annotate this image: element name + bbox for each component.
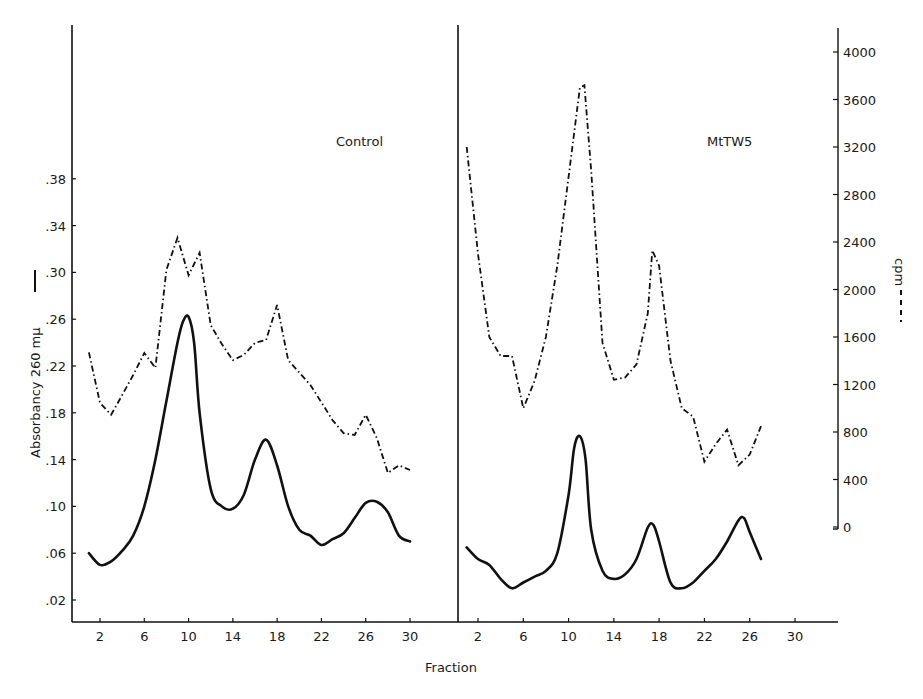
y-right-tick-label: 3200 (843, 140, 876, 155)
y-right-tick-label: 4000 (843, 45, 876, 60)
y-right-tick-label: 2000 (843, 283, 876, 298)
y-left-tick-label: .34 (45, 219, 66, 234)
x-tick-label: 6 (140, 629, 148, 644)
y-left-tick-label: .30 (45, 265, 66, 280)
y-right-tick-label: 1600 (843, 330, 876, 345)
y-right-tick-label: 2800 (843, 188, 876, 203)
y-left-tick-label: .18 (45, 406, 66, 421)
x-tick-label: 18 (269, 629, 286, 644)
x-tick-label: 6 (519, 629, 527, 644)
absorbancy-line-mttw5 (467, 436, 761, 589)
y-right-tick-label: 400 (843, 473, 868, 488)
x-tick-label: 26 (741, 629, 758, 644)
y-axis-left-title: Absorbancy 260 mμ (28, 327, 43, 458)
x-tick-label: 14 (225, 629, 242, 644)
y-right-tick-label: 800 (843, 425, 868, 440)
y-axis-right-title: cpm (892, 258, 907, 286)
y-left-tick-label: .38 (45, 172, 66, 187)
x-tick-label: 2 (474, 629, 482, 644)
x-tick-label: 30 (402, 629, 419, 644)
y-left-tick-label: .02 (45, 593, 66, 608)
y-left-tick-label: .10 (45, 499, 66, 514)
y-left-tick-label: .06 (45, 546, 66, 561)
x-tick-label: 22 (696, 629, 713, 644)
x-tick-label: 18 (651, 629, 668, 644)
absorbancy-line-control (89, 316, 410, 566)
y-left-tick-label: .26 (45, 312, 66, 327)
panel-label-control: Control (336, 134, 383, 149)
x-tick-label: 2 (96, 629, 104, 644)
data-series (89, 85, 761, 588)
x-tick-label: 14 (606, 629, 623, 644)
y-right-tick-label: 2400 (843, 235, 876, 250)
x-tick-label: 30 (787, 629, 804, 644)
y-right-tick-label: 3600 (843, 93, 876, 108)
panel-label-mttw5: MtTW5 (707, 134, 752, 149)
x-tick-label: 22 (313, 629, 330, 644)
x-tick-label: 10 (180, 629, 197, 644)
labels: Control MtTW5 Fraction Absorbancy 260 mμ… (28, 134, 907, 675)
x-tick-label: 10 (560, 629, 577, 644)
y-left-tick-label: .22 (45, 359, 66, 374)
cpm-line-control (89, 238, 410, 473)
chart-canvas: .02.06.10.14.18.22.26.30.34.380400800120… (0, 0, 923, 699)
x-axis-title: Fraction (425, 660, 477, 675)
y-left-tick-label: .14 (45, 453, 66, 468)
y-right-tick-label: 0 (843, 520, 851, 535)
y-right-tick-label: 1200 (843, 378, 876, 393)
axes (72, 25, 838, 622)
x-tick-label: 26 (357, 629, 374, 644)
